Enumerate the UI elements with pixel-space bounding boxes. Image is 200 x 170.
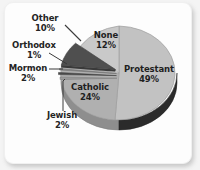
pie-label-mormon-name: Mormon	[9, 63, 48, 73]
pie-label-jewish-name: Jewish	[47, 110, 77, 120]
pie-label-protestant-value: 49%	[118, 75, 180, 85]
pie-label-orthodox-value: 1%	[5, 51, 63, 61]
pie-chart: Other 10% Orthodox 1% Mormon 2% Jewish 2…	[5, 3, 191, 163]
pie-label-none-value: 12%	[84, 41, 128, 51]
pie-label-jewish-value: 2%	[36, 121, 88, 131]
pie-label-none: None 12%	[84, 31, 128, 50]
pie-label-jewish: Jewish 2%	[36, 111, 88, 130]
pie-label-protestant: Protestant 49%	[118, 65, 180, 84]
chart-card: Other 10% Orthodox 1% Mormon 2% Jewish 2…	[4, 2, 192, 164]
pie-label-mormon-value: 2%	[4, 74, 54, 84]
pie-label-protestant-name: Protestant	[124, 64, 174, 74]
pie-label-other: Other 10%	[19, 14, 71, 33]
pie-label-catholic: Catholic 24%	[65, 83, 115, 102]
screenshot-root: Other 10% Orthodox 1% Mormon 2% Jewish 2…	[0, 0, 200, 170]
pie-label-mormon: Mormon 2%	[4, 64, 54, 83]
pie-label-orthodox-name: Orthodox	[12, 40, 56, 50]
pie-label-catholic-value: 24%	[65, 93, 115, 103]
pie-label-none-name: None	[94, 30, 118, 40]
pie-label-other-name: Other	[32, 13, 59, 23]
pie-label-catholic-name: Catholic	[71, 82, 109, 92]
pie-label-other-value: 10%	[19, 24, 71, 34]
pie-label-orthodox: Orthodox 1%	[5, 41, 63, 60]
